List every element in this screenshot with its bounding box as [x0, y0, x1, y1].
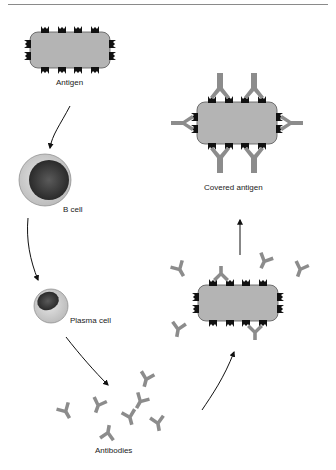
- plasma-cell-label: Plasma cell: [70, 316, 111, 325]
- antibody-diagram: [0, 0, 336, 470]
- b-cell: [19, 154, 71, 206]
- plasma-cell: [34, 289, 68, 323]
- antibodies-label: Antibodies: [95, 446, 132, 455]
- antigen: [24, 26, 116, 74]
- covered-antigen-label: Covered antigen: [204, 183, 263, 192]
- antibodies-cluster: [55, 370, 167, 442]
- b-cell-label: B cell: [63, 205, 83, 214]
- binding-antigen: [192, 266, 284, 340]
- covered-antigen: [171, 73, 303, 173]
- antigen-label: Antigen: [56, 78, 83, 87]
